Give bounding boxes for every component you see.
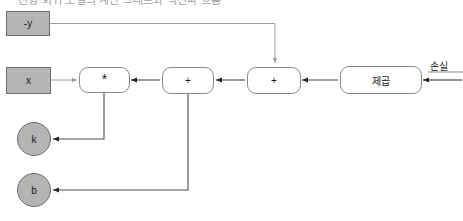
node-grad-b-label: b <box>31 185 37 196</box>
wire-add-b-to-grad-b <box>53 93 188 190</box>
node-add-neg-y-label: + <box>271 75 277 86</box>
page-title: 선형 회귀 모델의 계산 그래프와 역전파 흐름 <box>18 0 221 7</box>
wire-negy-to-add <box>49 24 275 64</box>
node-x-label: x <box>26 75 31 86</box>
node-grad-b[interactable]: b <box>17 173 51 207</box>
node-add-neg-y[interactable]: + <box>247 67 301 94</box>
node-add-b-label: + <box>185 75 191 86</box>
wire-multiply-to-grad-k <box>53 93 104 139</box>
node-grad-k[interactable]: k <box>17 122 51 156</box>
node-x[interactable]: x <box>6 67 51 94</box>
node-add-b[interactable]: + <box>162 67 214 94</box>
node-square-label: 제곱 <box>372 73 390 88</box>
node-grad-k-label: k <box>32 134 37 145</box>
loss-label: 손실 <box>430 58 448 73</box>
node-neg-y[interactable]: -y <box>6 11 50 36</box>
wire-layer <box>0 0 463 221</box>
diagram-canvas: 선형 회귀 모델의 계산 그래프와 역전파 흐름 <box>0 0 463 221</box>
node-neg-y-label: -y <box>24 18 32 29</box>
node-multiply[interactable]: * <box>79 67 130 93</box>
node-square[interactable]: 제곱 <box>340 66 422 94</box>
